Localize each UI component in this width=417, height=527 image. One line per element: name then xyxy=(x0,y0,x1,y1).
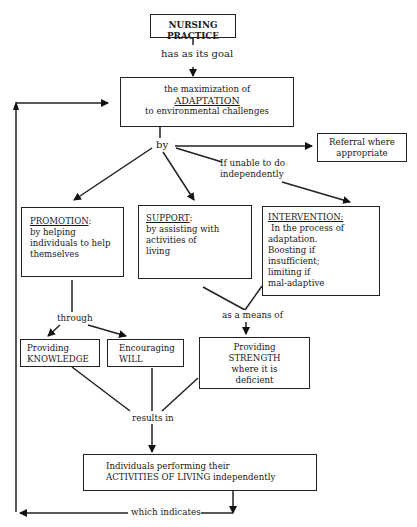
goal-line-1: the maximization of xyxy=(121,84,293,95)
edge-label-through: through xyxy=(57,313,93,324)
unable-line-1: If unable to do xyxy=(220,158,285,169)
referral-box: Referral where appropriate xyxy=(317,133,407,162)
intervention-line: In the process of xyxy=(268,223,379,234)
unable-line-2: independently xyxy=(220,169,285,180)
edge-label-results-in: results in xyxy=(132,413,174,424)
will-line: WILL xyxy=(119,354,183,365)
support-heading: SUPPORT: xyxy=(146,213,251,224)
outcome-line-1: Individuals performing their xyxy=(106,461,316,472)
knowledge-box: Providing KNOWLEDGE xyxy=(20,339,100,367)
intervention-heading: INTERVENTION: xyxy=(268,212,379,223)
edge-label-by: by xyxy=(156,139,168,150)
promotion-line: by helping xyxy=(30,227,123,238)
intervention-box: INTERVENTION: In the process of adaptati… xyxy=(262,206,380,296)
intervention-line: limiting if xyxy=(268,267,379,278)
intervention-line: adaptation. xyxy=(268,234,379,245)
support-line: living xyxy=(146,246,251,257)
promotion-heading: PROMOTION: xyxy=(30,216,123,227)
strength-line: STRENGTH xyxy=(200,353,309,364)
referral-line-1: Referral where xyxy=(318,137,406,148)
support-line: by assisting with xyxy=(146,224,251,235)
outcome-line-2: ACTIVITIES OF LIVING independently xyxy=(106,472,316,483)
strength-box: Providing STRENGTH where it is deficient xyxy=(199,337,310,389)
will-box: Encouraging WILL xyxy=(107,339,184,367)
support-line: activities of xyxy=(146,235,251,246)
nursing-practice-label: NURSING PRACTICE xyxy=(167,20,219,41)
knowledge-line: KNOWLEDGE xyxy=(27,354,99,365)
goal-line-3: to environmental challenges xyxy=(121,106,293,117)
promotion-box: PROMOTION: by helping individuals to hel… xyxy=(21,207,124,277)
strength-line: Providing xyxy=(200,342,309,353)
edge-label-which-indicates: which indicates xyxy=(131,507,201,518)
goal-line-2-adaptation: ADAPTATION xyxy=(121,95,293,106)
adaptation-goal-box: the maximization of ADAPTATION to enviro… xyxy=(120,77,294,127)
activities-of-living-box: Individuals performing their ACTIVITIES … xyxy=(83,454,317,491)
strength-line: where it is xyxy=(200,364,309,375)
knowledge-line: Providing xyxy=(27,343,99,354)
promotion-line: themselves xyxy=(30,249,123,260)
will-line: Encouraging xyxy=(119,343,183,354)
support-box: SUPPORT: by assisting with activities of… xyxy=(138,205,252,279)
edge-label-if-unable: If unable to do independently xyxy=(220,158,285,180)
intervention-line: insufficient; xyxy=(268,256,379,267)
intervention-line: mal-adaptive xyxy=(268,278,379,289)
intervention-line: Boosting if xyxy=(268,245,379,256)
edge-label-as-a-means-of: as a means of xyxy=(222,310,283,321)
nursing-practice-box: NURSING PRACTICE xyxy=(150,14,236,38)
edge-label-has-as-its-goal: has as its goal xyxy=(161,48,233,59)
promotion-line: individuals to help xyxy=(30,238,123,249)
strength-line: deficient xyxy=(200,375,309,386)
referral-line-2: appropriate xyxy=(318,148,406,159)
